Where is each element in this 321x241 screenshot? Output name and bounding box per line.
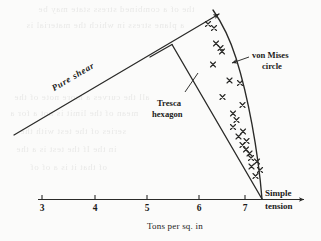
simple-tension-label-line1: Simple	[265, 187, 292, 199]
tresca-leader-line	[185, 73, 198, 92]
x-axis-title: Tons per sq. in	[147, 221, 203, 231]
x-tick-label-7: 7	[238, 203, 252, 213]
tresca-hexagon-upper-facet	[150, 45, 172, 58]
data-point-x	[240, 103, 245, 108]
data-point-x	[253, 174, 258, 179]
data-points-group	[206, 22, 263, 179]
x-axis-ticks	[42, 195, 245, 200]
data-point-x	[241, 129, 246, 134]
tresca-label-line2: hexagon	[152, 109, 183, 120]
tresca-label-line1: Tresca	[157, 98, 181, 109]
data-point-x	[255, 159, 260, 164]
data-point-x	[211, 62, 216, 67]
data-point-x	[231, 125, 236, 130]
data-point-x	[231, 111, 236, 116]
von-mises-circle-curve	[213, 10, 262, 199]
data-point-x	[249, 156, 254, 161]
data-point-x	[249, 164, 254, 169]
data-point-x	[238, 81, 243, 86]
von-mises-label-line1: von Mises	[252, 50, 289, 61]
data-point-x	[247, 151, 252, 156]
x-tick-label-4: 4	[88, 203, 102, 213]
data-point-x	[258, 168, 263, 173]
von-mises-leader-line	[232, 57, 249, 63]
figure-yield-criteria: the of a combined stress state may be a …	[0, 0, 321, 241]
data-point-x	[240, 143, 245, 148]
x-tick-label-5: 5	[140, 203, 154, 213]
data-point-x	[236, 134, 241, 139]
data-point-x	[212, 26, 217, 31]
pure-shear-line	[14, 14, 219, 135]
data-point-x	[227, 78, 232, 83]
x-tick-label-3: 3	[35, 203, 49, 213]
x-tick-label-6: 6	[192, 203, 206, 213]
data-point-x	[206, 22, 211, 27]
von-mises-label-line2: circle	[262, 61, 282, 72]
data-point-x	[220, 95, 225, 100]
simple-tension-label-line2: tension	[265, 200, 293, 212]
data-point-x	[234, 118, 239, 123]
tresca-hexagon-line	[172, 45, 262, 200]
